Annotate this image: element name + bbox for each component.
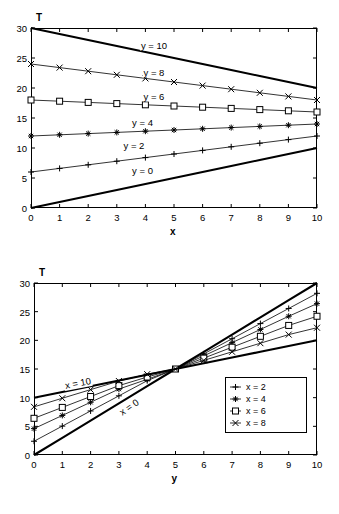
x-tick-label: 9 [286, 459, 291, 470]
x-tick-label: 4 [143, 212, 148, 223]
x-axis-label: x [170, 226, 176, 237]
curve-label: y = 8 [143, 67, 166, 78]
legend-label: x = 8 [246, 418, 266, 428]
y-axis-label: T [39, 267, 45, 278]
tick-marks [31, 28, 317, 208]
x-tick-label: 10 [312, 212, 323, 223]
y-tick-label: 15 [0, 113, 27, 124]
legend-entry: x = 4 [229, 393, 301, 405]
y-tick-label: 30 [0, 23, 27, 34]
y-axis-label: T [36, 12, 42, 23]
x-tick-label: 9 [286, 212, 291, 223]
y-tick-label: 20 [2, 335, 30, 346]
x-tick-label: 7 [229, 459, 234, 470]
x-tick-label: 0 [28, 212, 33, 223]
x-tick-label: 5 [171, 212, 176, 223]
legend-entry: x = 6 [229, 405, 301, 417]
y-tick-label: 20 [0, 83, 27, 94]
x-tick-label: 4 [145, 459, 150, 470]
legend-label: x = 6 [246, 406, 266, 416]
x-tick-label: 1 [57, 212, 62, 223]
curve-label: y = 4 [131, 116, 154, 127]
x-tick-label: 2 [88, 459, 93, 470]
y-tick-label: 10 [0, 143, 27, 154]
figure-temperature-vs-x: 051015202530012345678910Txy = 10y = 8y =… [0, 0, 339, 250]
series-markers [28, 61, 320, 103]
y-tick-label: 25 [0, 53, 27, 64]
y-tick-label: 5 [2, 421, 30, 432]
cross-marker [229, 417, 242, 429]
plot-area-bottom: 051015202530012345678910Tyx = 10x = 0x =… [0, 250, 339, 514]
y-tick-label: 0 [2, 450, 30, 461]
y-tick-label: 10 [2, 392, 30, 403]
x-tick-label: 6 [201, 459, 206, 470]
curve-label: y = 10 [140, 39, 168, 50]
x-tick-label: 6 [200, 212, 205, 223]
x-tick-label: 3 [116, 459, 121, 470]
series-line [31, 28, 317, 88]
series-markers [28, 121, 320, 139]
curve-label: y = 0 [131, 165, 154, 176]
x-tick-label: 1 [60, 459, 65, 470]
x-tick-label: 8 [257, 212, 262, 223]
x-tick-label: 5 [173, 459, 178, 470]
star-marker [229, 393, 242, 405]
y-tick-label: 0 [0, 203, 27, 214]
plus-marker [229, 381, 242, 393]
y-tick-label: 30 [2, 278, 30, 289]
x-axis-label: y [172, 473, 178, 484]
x-tick-label: 7 [229, 212, 234, 223]
curve-label: y = 6 [143, 91, 166, 102]
series-markers [28, 97, 320, 115]
legend-label: x = 2 [246, 382, 266, 392]
x-tick-label: 0 [31, 459, 36, 470]
series-markers [28, 133, 320, 175]
legend: x = 2x = 4x = 6x = 8 [225, 377, 307, 433]
x-tick-label: 2 [86, 212, 91, 223]
y-tick-label: 25 [2, 306, 30, 317]
square-marker [229, 405, 242, 417]
legend-entry: x = 2 [229, 381, 301, 393]
legend-entry: x = 8 [229, 417, 301, 429]
plot-area-top: 051015202530012345678910Txy = 10y = 8y =… [0, 0, 339, 250]
y-tick-label: 15 [2, 364, 30, 375]
x-tick-label: 3 [114, 212, 119, 223]
y-tick-label: 5 [0, 173, 27, 184]
x-tick-label: 8 [258, 459, 263, 470]
figure-temperature-vs-y: 051015202530012345678910Tyx = 10x = 0x =… [0, 250, 339, 514]
x-tick-label: 10 [312, 459, 323, 470]
curve-label: y = 2 [123, 140, 146, 151]
legend-label: x = 4 [246, 394, 266, 404]
